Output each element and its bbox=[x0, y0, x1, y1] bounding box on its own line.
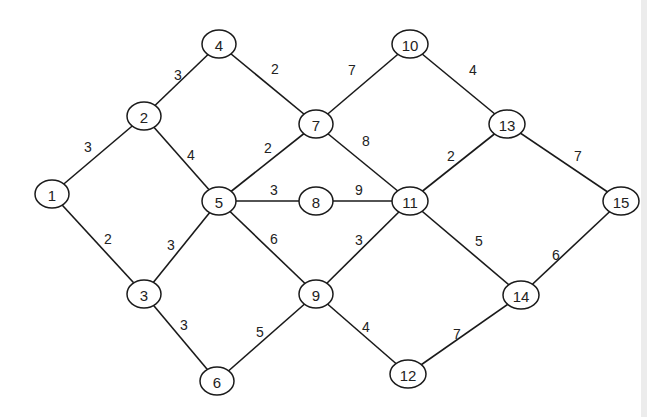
node-8: 8 bbox=[299, 187, 333, 215]
edge-weight-8-11: 9 bbox=[355, 182, 363, 198]
edge-12-14 bbox=[408, 295, 521, 374]
edge-1-2 bbox=[52, 116, 144, 194]
edge-6-9 bbox=[217, 294, 316, 381]
node-label: 9 bbox=[312, 287, 320, 304]
edge-weight-6-9: 5 bbox=[256, 324, 264, 340]
edges-layer bbox=[52, 44, 621, 381]
edge-weight-3-6: 3 bbox=[180, 317, 188, 333]
edge-weight-9-11: 3 bbox=[355, 232, 363, 248]
node-4: 4 bbox=[202, 30, 236, 58]
node-label: 8 bbox=[312, 194, 320, 211]
node-label: 5 bbox=[215, 194, 223, 211]
edge-weight-5-8: 3 bbox=[270, 182, 278, 198]
node-2: 2 bbox=[127, 102, 161, 130]
edge-weight-11-13: 2 bbox=[447, 148, 455, 164]
node-7: 7 bbox=[299, 110, 333, 138]
node-1: 1 bbox=[35, 180, 69, 208]
edge-10-13 bbox=[410, 44, 507, 124]
node-9: 9 bbox=[299, 280, 333, 308]
nodes-layer: 123456789101112131415 bbox=[35, 30, 639, 395]
edge-weight-9-12: 4 bbox=[362, 319, 370, 335]
edge-4-7 bbox=[219, 44, 316, 124]
node-label: 4 bbox=[215, 37, 223, 54]
node-14: 14 bbox=[503, 281, 539, 309]
edge-weight-7-10: 7 bbox=[348, 62, 356, 78]
edge-weight-5-9: 6 bbox=[270, 231, 278, 247]
edge-weight-3-5: 3 bbox=[167, 237, 175, 253]
node-12: 12 bbox=[390, 360, 426, 388]
node-label: 12 bbox=[400, 367, 417, 384]
edge-9-11 bbox=[316, 201, 410, 294]
weighted-graph-diagram: 3234332236578934425776 12345678910111213… bbox=[0, 0, 647, 417]
edge-weight-1-3: 2 bbox=[104, 231, 112, 247]
edge-weight-14-15: 6 bbox=[552, 247, 560, 263]
edge-weight-13-15: 7 bbox=[574, 148, 582, 164]
node-label: 14 bbox=[513, 288, 530, 305]
node-label: 10 bbox=[402, 37, 419, 54]
node-11: 11 bbox=[392, 187, 428, 215]
edge-weight-4-7: 2 bbox=[271, 61, 279, 77]
edge-3-6 bbox=[144, 294, 217, 381]
edge-11-14 bbox=[410, 201, 521, 295]
edge-14-15 bbox=[521, 201, 621, 295]
edge-weight-2-5: 4 bbox=[187, 147, 195, 163]
edge-2-5 bbox=[144, 116, 219, 201]
edge-weight-7-11: 8 bbox=[362, 133, 370, 149]
edge-weight-10-13: 4 bbox=[469, 62, 477, 78]
edge-3-5 bbox=[144, 201, 219, 294]
node-5: 5 bbox=[202, 187, 236, 215]
edge-weight-12-14: 7 bbox=[453, 326, 461, 342]
edge-weight-5-7: 2 bbox=[264, 140, 272, 156]
node-label: 7 bbox=[312, 117, 320, 134]
edge-weight-1-2: 3 bbox=[84, 139, 92, 155]
edge-11-13 bbox=[410, 124, 507, 201]
node-6: 6 bbox=[200, 367, 234, 395]
node-3: 3 bbox=[127, 280, 161, 308]
node-label: 13 bbox=[499, 117, 516, 134]
edge-5-9 bbox=[219, 201, 316, 294]
node-13: 13 bbox=[489, 110, 525, 138]
edge-13-15 bbox=[507, 124, 621, 201]
node-label: 11 bbox=[402, 194, 418, 211]
node-15: 15 bbox=[603, 187, 639, 215]
edge-5-7 bbox=[219, 124, 316, 201]
node-10: 10 bbox=[392, 30, 428, 58]
node-label: 3 bbox=[140, 287, 148, 304]
node-label: 15 bbox=[613, 194, 630, 211]
node-label: 2 bbox=[140, 109, 148, 126]
edge-weight-11-14: 5 bbox=[475, 233, 483, 249]
node-label: 6 bbox=[213, 374, 221, 391]
edge-1-3 bbox=[52, 194, 144, 294]
node-label: 1 bbox=[48, 187, 56, 204]
edge-weight-2-4: 3 bbox=[174, 67, 182, 83]
edge-7-10 bbox=[316, 44, 410, 124]
